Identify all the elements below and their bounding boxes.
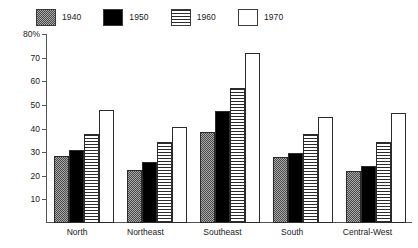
x-axis-category-label: North <box>67 228 88 242</box>
bar[interactable] <box>318 117 333 223</box>
bar[interactable] <box>273 157 288 223</box>
legend-label-1960: 1960 <box>197 13 216 22</box>
bar[interactable] <box>157 142 172 224</box>
bar[interactable] <box>288 153 303 223</box>
y-axis-tick <box>42 81 46 82</box>
y-axis-tick-label: 30 <box>0 148 40 157</box>
bar-group <box>200 34 260 223</box>
y-axis-tick-label: 10 <box>0 195 40 204</box>
bar[interactable] <box>54 156 69 223</box>
legend-swatch-1970-icon <box>238 9 258 26</box>
x-axis-category-label: Northeast <box>127 228 164 242</box>
bar[interactable] <box>127 170 142 223</box>
bar[interactable] <box>303 134 318 223</box>
bar-group <box>273 34 333 223</box>
bar[interactable] <box>361 166 376 223</box>
plot-area <box>46 34 412 223</box>
y-axis-tick <box>42 176 46 177</box>
bar-groups <box>47 34 412 223</box>
bar[interactable] <box>142 162 157 223</box>
bar[interactable] <box>200 132 215 223</box>
legend-swatch-1960-icon <box>171 9 191 26</box>
y-axis-labels: 80%70605040302010 <box>0 34 40 223</box>
bar[interactable] <box>391 113 406 223</box>
bar-chart: 1940 1950 1960 1970 80%70605040302010 No… <box>0 0 418 248</box>
x-axis-category-label: Central-West <box>343 228 392 242</box>
legend-label-1940: 1940 <box>62 13 81 22</box>
y-axis-tick-label: 20 <box>0 172 40 181</box>
legend-swatch-1940-icon <box>36 9 56 26</box>
y-axis-tick <box>42 199 46 200</box>
legend-item-1940[interactable]: 1940 <box>36 9 81 26</box>
y-axis-tick-label: 80% <box>0 30 40 39</box>
y-axis-tick-label: 40 <box>0 125 40 134</box>
y-axis-tick <box>42 105 46 106</box>
y-axis-tick-label: 70 <box>0 54 40 63</box>
bar[interactable] <box>84 134 99 223</box>
legend-label-1970: 1970 <box>264 13 283 22</box>
bar-group <box>346 34 406 223</box>
legend-label-1950: 1950 <box>129 13 148 22</box>
bar[interactable] <box>215 111 230 223</box>
legend-item-1950[interactable]: 1950 <box>103 9 148 26</box>
bar[interactable] <box>230 88 245 223</box>
bar[interactable] <box>346 171 361 223</box>
bar[interactable] <box>172 127 187 223</box>
bar[interactable] <box>69 150 84 223</box>
y-axis-tick <box>42 129 46 130</box>
x-axis-category-label: Southeast <box>203 228 241 242</box>
x-axis-category-label: South <box>281 228 303 242</box>
y-axis-tick-label: 60 <box>0 77 40 86</box>
bar-group <box>127 34 187 223</box>
y-axis-tick <box>42 34 46 35</box>
y-axis-tick <box>42 152 46 153</box>
bar-group <box>54 34 114 223</box>
bar[interactable] <box>376 142 391 224</box>
x-axis-labels: NorthNortheastSoutheastSouthCentral-West <box>47 228 412 242</box>
legend-swatch-1950-icon <box>103 9 123 26</box>
legend-item-1970[interactable]: 1970 <box>238 9 283 26</box>
legend-item-1960[interactable]: 1960 <box>171 9 216 26</box>
bar[interactable] <box>245 53 260 223</box>
y-axis-tick-label: 50 <box>0 101 40 110</box>
y-axis-tick <box>42 58 46 59</box>
chart-legend: 1940 1950 1960 1970 <box>36 6 305 28</box>
bar[interactable] <box>99 110 114 223</box>
